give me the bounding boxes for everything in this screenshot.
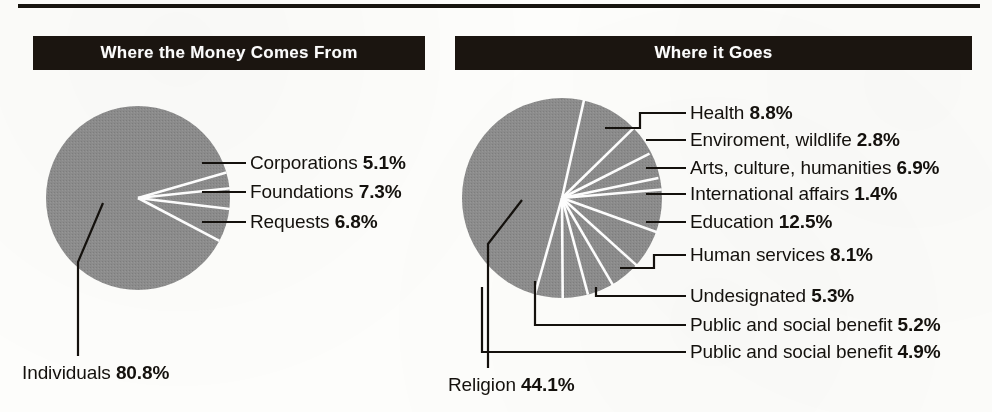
pie-label-education: Education 12.5% bbox=[690, 211, 832, 233]
pie-label-corporations: Corporations 5.1% bbox=[250, 152, 406, 174]
pie-label-requests-value: 6.8% bbox=[335, 211, 378, 232]
pie-label-education-text: Education bbox=[690, 211, 774, 232]
pie-label-environment-value: 2.8% bbox=[857, 129, 900, 150]
chart-panel-money-comes-from: Where the Money Comes From bbox=[0, 0, 450, 412]
pie-chart-money-comes-from bbox=[0, 0, 450, 412]
pie-label-health-value: 8.8% bbox=[750, 102, 793, 123]
pie-label-individuals-value: 80.8% bbox=[116, 362, 169, 383]
figure-page: Where the Money Comes From bbox=[0, 0, 992, 412]
pie-label-public-benefit-2: Public and social benefit 4.9% bbox=[690, 341, 941, 363]
pie-label-arts-value: 6.9% bbox=[897, 157, 940, 178]
pie-label-undesignated-text: Undesignated bbox=[690, 285, 806, 306]
pie-label-international-text: International affairs bbox=[690, 183, 849, 204]
pie-label-health: Health 8.8% bbox=[690, 102, 792, 124]
pie-label-international-value: 1.4% bbox=[854, 183, 897, 204]
pie-label-human-services: Human services 8.1% bbox=[690, 244, 873, 266]
pie-label-human-services-value: 8.1% bbox=[830, 244, 873, 265]
pie-label-religion-value: 44.1% bbox=[521, 374, 574, 395]
pie-label-individuals-text: Individuals bbox=[22, 362, 111, 383]
pie-label-foundations-value: 7.3% bbox=[359, 181, 402, 202]
pie-label-environment: Enviroment, wildlife 2.8% bbox=[690, 129, 900, 151]
pie-label-arts: Arts, culture, humanities 6.9% bbox=[690, 157, 939, 179]
pie-label-human-services-text: Human services bbox=[690, 244, 825, 265]
pie-label-international: International affairs 1.4% bbox=[690, 183, 897, 205]
pie-label-public-benefit-1-text: Public and social benefit bbox=[690, 314, 892, 335]
pie-label-individuals: Individuals 80.8% bbox=[22, 362, 169, 384]
pie-label-corporations-value: 5.1% bbox=[363, 152, 406, 173]
pie-label-requests: Requests 6.8% bbox=[250, 211, 378, 233]
pie-label-public-benefit-1-value: 5.2% bbox=[898, 314, 941, 335]
pie-label-religion: Religion 44.1% bbox=[448, 374, 574, 396]
pie-label-arts-text: Arts, culture, humanities bbox=[690, 157, 891, 178]
pie-label-religion-text: Religion bbox=[448, 374, 516, 395]
pie-label-undesignated-value: 5.3% bbox=[811, 285, 854, 306]
pie-label-public-benefit-2-text: Public and social benefit bbox=[690, 341, 892, 362]
pie-label-public-benefit-2-value: 4.9% bbox=[898, 341, 941, 362]
pie-label-foundations-text: Foundations bbox=[250, 181, 353, 202]
pie-label-requests-text: Requests bbox=[250, 211, 329, 232]
pie-label-environment-text: Enviroment, wildlife bbox=[690, 129, 852, 150]
pie-label-undesignated: Undesignated 5.3% bbox=[690, 285, 854, 307]
pie-label-education-value: 12.5% bbox=[779, 211, 832, 232]
pie-label-public-benefit-1: Public and social benefit 5.2% bbox=[690, 314, 941, 336]
chart-panel-where-it-goes: Where it Goes bbox=[450, 0, 992, 412]
pie-label-health-text: Health bbox=[690, 102, 744, 123]
pie-label-corporations-text: Corporations bbox=[250, 152, 358, 173]
leader-line-undesignated-2 bbox=[596, 287, 686, 296]
pie-label-foundations: Foundations 7.3% bbox=[250, 181, 402, 203]
